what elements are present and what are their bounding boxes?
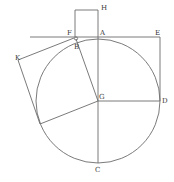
label-f: F bbox=[67, 29, 72, 37]
label-g: G bbox=[99, 93, 105, 101]
label-b: B bbox=[74, 43, 79, 51]
line-fk bbox=[18, 38, 74, 60]
radius-bg bbox=[76, 39, 98, 101]
label-a: A bbox=[99, 29, 106, 37]
label-c: C bbox=[95, 166, 100, 174]
diagram-canvas: H F A E B K G D C bbox=[0, 0, 174, 182]
label-k: K bbox=[15, 54, 21, 62]
geometry-figure: H F A E B K G D C bbox=[0, 0, 174, 182]
label-d: D bbox=[162, 97, 168, 105]
label-e: E bbox=[155, 29, 160, 37]
radius-lower-left bbox=[40, 101, 98, 124]
label-h: H bbox=[101, 4, 107, 12]
